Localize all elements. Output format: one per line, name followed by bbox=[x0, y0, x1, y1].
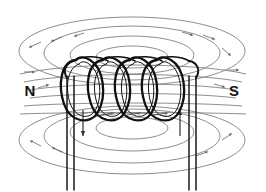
solenoid-field-diagram: N S bbox=[0, 0, 266, 192]
north-pole-label: N bbox=[25, 82, 36, 99]
south-pole-label: S bbox=[229, 82, 239, 99]
solenoid-diagram-root: N S bbox=[0, 0, 266, 192]
